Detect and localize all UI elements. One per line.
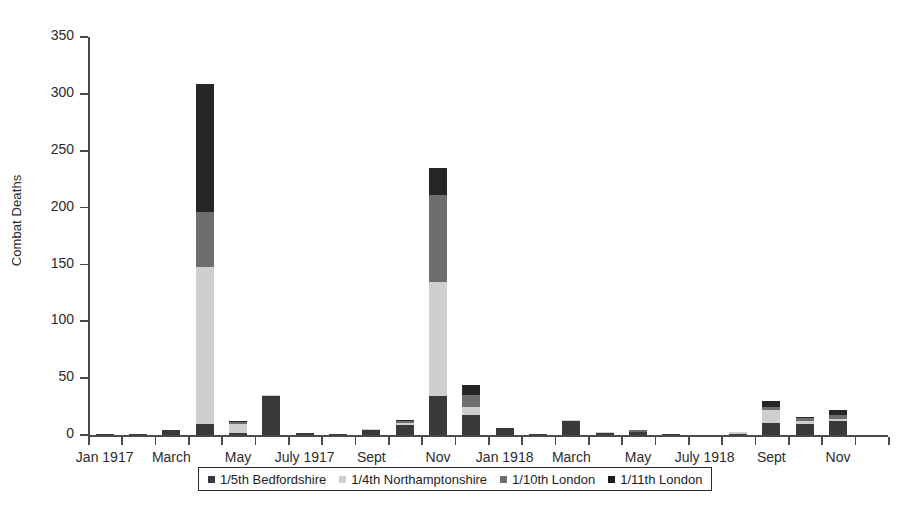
bar-segment — [196, 424, 214, 435]
x-tick — [321, 437, 323, 445]
y-tick: 350 — [80, 36, 88, 38]
bar — [662, 434, 680, 435]
bar — [262, 395, 280, 435]
y-tick-label: 150 — [51, 255, 74, 271]
x-tick — [721, 437, 723, 445]
chart-legend: 1/5th Bedfordshire1/4th Northamptonshire… — [198, 467, 712, 491]
y-tick-label: 0 — [66, 425, 74, 441]
chart-page: Combat Deaths 050100150200250300350 Jan … — [0, 0, 919, 514]
bar-segment — [429, 195, 447, 281]
x-tick — [121, 437, 123, 445]
y-tick: 300 — [80, 93, 88, 95]
x-tick — [588, 437, 590, 445]
bar-segment — [796, 424, 814, 435]
bar-segment — [196, 267, 214, 424]
y-tick-label: 100 — [51, 311, 74, 327]
bar — [196, 84, 214, 435]
x-tick — [655, 437, 657, 445]
bar-segment — [229, 433, 247, 435]
x-tick-label: Jan 1917 — [76, 449, 134, 465]
bar-segment — [229, 424, 247, 433]
bar-segment — [496, 428, 514, 435]
x-tick — [855, 437, 857, 445]
y-axis-label-text: Combat Deaths — [10, 174, 25, 266]
x-tick — [421, 437, 423, 445]
x-tick — [355, 437, 357, 445]
legend-item[interactable]: 1/5th Bedfordshire — [208, 472, 326, 487]
x-tick — [488, 437, 490, 445]
x-tick-label: May — [625, 449, 651, 465]
plot-area: 050100150200250300350 Jan 1917MarchMayJu… — [88, 37, 888, 435]
y-tick-label: 200 — [51, 198, 74, 214]
bar — [596, 432, 614, 435]
y-tick-label: 50 — [58, 368, 74, 384]
bar — [362, 429, 380, 435]
legend-swatch-icon — [339, 476, 346, 483]
bar-segment — [462, 415, 480, 435]
bar-segment — [429, 282, 447, 397]
bar — [796, 417, 814, 435]
bar-segment — [396, 425, 414, 435]
bar-segment — [462, 385, 480, 395]
bar — [529, 434, 547, 435]
y-tick: 100 — [80, 320, 88, 322]
x-tick-label: Nov — [426, 449, 451, 465]
bar-segment — [462, 407, 480, 415]
bar-segment — [429, 168, 447, 195]
y-tick-label: 300 — [51, 84, 74, 100]
bar — [162, 430, 180, 435]
bar — [762, 401, 780, 435]
bar — [329, 434, 347, 435]
legend-label: 1/4th Northamptonshire — [351, 472, 487, 487]
legend-item[interactable]: 1/11th London — [608, 472, 702, 487]
legend-item[interactable]: 1/4th Northamptonshire — [339, 472, 487, 487]
bar — [496, 428, 514, 435]
y-tick-label: 250 — [51, 141, 74, 157]
x-tick — [621, 437, 623, 445]
bar-segment — [829, 421, 847, 435]
y-tick: 200 — [80, 207, 88, 209]
y-tick: 50 — [80, 377, 88, 379]
bar-segment — [196, 212, 214, 267]
x-tick — [255, 437, 257, 445]
x-tick — [888, 437, 890, 445]
x-tick-label: Jan 1918 — [476, 449, 534, 465]
bar — [462, 385, 480, 435]
bar-segment — [762, 423, 780, 436]
x-tick-label: July 1917 — [275, 449, 335, 465]
bar — [229, 421, 247, 435]
bar-segment — [629, 432, 647, 435]
bar-segment — [729, 434, 747, 435]
bar — [129, 434, 147, 435]
bar — [429, 168, 447, 435]
y-tick: 250 — [80, 150, 88, 152]
bar-segment — [196, 84, 214, 212]
legend-swatch-icon — [500, 476, 507, 483]
x-tick — [788, 437, 790, 445]
bar-segment — [762, 410, 780, 423]
x-tick-label: Nov — [826, 449, 851, 465]
bar-segment — [662, 434, 680, 435]
legend-swatch-icon — [608, 476, 615, 483]
x-tick — [521, 437, 523, 445]
x-tick-label: March — [552, 449, 591, 465]
bar-segment — [362, 430, 380, 435]
bar — [629, 430, 647, 435]
legend-item[interactable]: 1/10th London — [500, 472, 595, 487]
x-tick — [821, 437, 823, 445]
bar-segment — [129, 434, 147, 435]
bar-segment — [96, 434, 114, 435]
bar-segment — [262, 396, 280, 435]
legend-label: 1/11th London — [620, 472, 702, 487]
legend-label: 1/5th Bedfordshire — [220, 472, 326, 487]
x-tick — [555, 437, 557, 445]
x-tick — [155, 437, 157, 445]
legend-swatch-icon — [208, 476, 215, 483]
y-axis-label: Combat Deaths — [2, 0, 32, 440]
x-tick — [88, 437, 90, 445]
bar-segment — [562, 421, 580, 435]
bar-segment — [162, 430, 180, 435]
x-tick — [455, 437, 457, 445]
x-tick-label: March — [152, 449, 191, 465]
x-tick — [388, 437, 390, 445]
